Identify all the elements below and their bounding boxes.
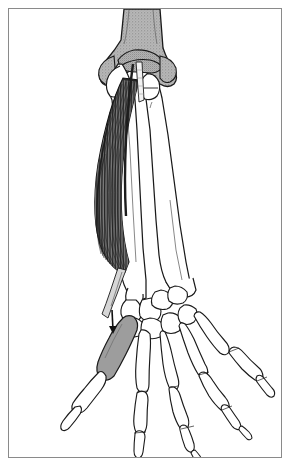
first-metacarpal <box>97 310 138 380</box>
caption-sliver <box>8 466 282 476</box>
radius <box>140 74 196 297</box>
thumb-phalanges <box>61 372 106 431</box>
anatomical-illustration <box>0 0 292 476</box>
figure-root <box>0 0 292 476</box>
lateral-epicondyle <box>160 56 176 83</box>
